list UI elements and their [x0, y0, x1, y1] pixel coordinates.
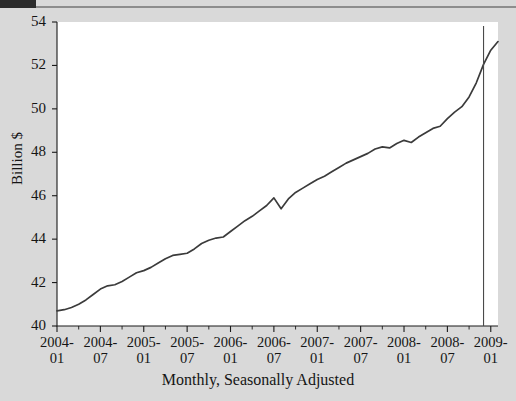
series-line-billion-dollars	[57, 42, 498, 311]
line-chart: 4042444648505254 2004-012004-072005-0120…	[0, 0, 516, 401]
y-tick-label: 54	[12, 14, 46, 29]
y-axis-title: Billion $	[9, 114, 26, 204]
x-tick-label-month: 01	[464, 350, 516, 366]
y-tick-label: 52	[12, 57, 46, 72]
y-tick-label: 40	[12, 318, 46, 333]
y-tick-label: 44	[12, 231, 46, 246]
x-tick-label: 2009-01	[464, 334, 516, 366]
x-tick-label-year: 2009-	[464, 334, 516, 350]
y-tick-label: 42	[12, 275, 46, 290]
x-axis-title: Monthly, Seasonally Adjusted	[0, 371, 516, 389]
